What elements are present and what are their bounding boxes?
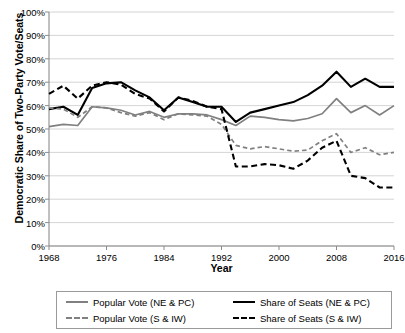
legend-item-share-of-seats-ne-pc[interactable]: Share of Seats (NE & PC) <box>224 297 391 308</box>
y-tick-label: 50% <box>26 124 45 135</box>
legend-item-popular-vote-ne-pc[interactable]: Popular Vote (NE & PC) <box>57 297 224 308</box>
y-tick-label: 0% <box>31 241 45 252</box>
y-tick-label: 20% <box>26 194 45 205</box>
chart-legend: Popular Vote (NE & PC) Share of Seats (N… <box>56 291 392 329</box>
y-tick-label: 60% <box>26 100 45 111</box>
y-tick-label: 90% <box>26 30 45 41</box>
series-line-3 <box>49 82 394 187</box>
legend-line-icon <box>233 317 255 319</box>
legend-line-icon <box>233 301 255 303</box>
legend-label: Popular Vote (NE & PC) <box>93 297 194 308</box>
chart-svg <box>49 12 394 246</box>
y-axis-label: Democratic Share of Two-Party Vote/Seats <box>13 3 25 233</box>
y-tick-label: 10% <box>26 217 45 228</box>
y-tick-label: 70% <box>26 77 45 88</box>
legend-item-share-of-seats-s-iw[interactable]: Share of Seats (S & IW) <box>224 313 391 324</box>
series-line-2 <box>49 107 394 155</box>
y-tick-label: 30% <box>26 170 45 181</box>
legend-label: Share of Seats (NE & PC) <box>260 297 370 308</box>
plot-area-wrapper: Democratic Share of Two-Party Vote/Seats… <box>0 0 403 283</box>
legend-label: Popular Vote (S & IW) <box>93 313 186 324</box>
x-axis-label: Year <box>49 262 394 274</box>
y-tick-label: 40% <box>26 147 45 158</box>
y-tick-label: 100% <box>21 7 45 18</box>
legend-line-icon <box>66 317 88 319</box>
y-tick-label: 80% <box>26 53 45 64</box>
legend-item-popular-vote-s-iw[interactable]: Popular Vote (S & IW) <box>57 313 224 324</box>
series-line-1 <box>49 72 394 122</box>
legend-line-icon <box>66 301 88 303</box>
legend-label: Share of Seats (S & IW) <box>260 313 361 324</box>
plot-area: 0%10%20%30%40%50%60%70%80%90%100% 196819… <box>49 12 394 246</box>
